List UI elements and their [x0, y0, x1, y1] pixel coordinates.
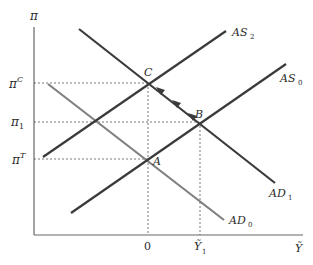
svg-text:1: 1 [19, 122, 24, 131]
svg-text:1: 1 [288, 194, 292, 202]
svg-text:2: 2 [250, 33, 254, 41]
svg-text:AD: AD [228, 214, 246, 227]
x-tick-y1: Ỹ 1 [194, 239, 206, 256]
y-tick-pi-1: π 1 [10, 115, 24, 131]
x-axis-label: Ỹ [295, 241, 304, 255]
curve-as2 [43, 31, 226, 157]
label-ad0: AD 0 [228, 214, 252, 229]
y-tick-pi-c: π C [8, 75, 23, 91]
arrow-icon [156, 87, 197, 121]
curve-ad0 [48, 84, 224, 220]
diagram-canvas: π Ỹ π C π 1 π T 0 Ỹ 1 AS 2 AS 0 [0, 0, 313, 265]
as-ad-diagram: π Ỹ π C π 1 π T 0 Ỹ 1 AS 2 AS 0 [0, 0, 313, 265]
svg-text:C: C [17, 75, 23, 84]
svg-text:AS: AS [231, 26, 248, 39]
svg-text:AD: AD [268, 187, 286, 200]
svg-text:0: 0 [248, 221, 252, 229]
x-tick-0: 0 [144, 240, 151, 253]
y-axis-label: π [29, 9, 39, 23]
point-b-label: B [194, 108, 203, 121]
svg-text:AS: AS [279, 72, 296, 85]
label-as2: AS 2 [231, 26, 254, 41]
label-as0: AS 0 [279, 72, 302, 87]
point-c-label: C [144, 66, 153, 79]
label-ad1: AD 1 [268, 187, 292, 202]
svg-text:0: 0 [298, 79, 302, 87]
svg-text:T: T [20, 151, 26, 160]
svg-text:1: 1 [202, 248, 206, 256]
y-tick-pi-t: π T [11, 151, 26, 167]
curve-as0 [71, 64, 286, 213]
point-a-label: A [152, 155, 161, 168]
